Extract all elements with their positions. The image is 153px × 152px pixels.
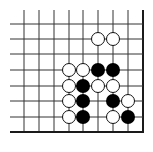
white-stone <box>92 33 105 46</box>
black-stone <box>91 63 105 77</box>
black-stone <box>121 110 135 124</box>
black-stone <box>76 110 90 124</box>
black-stone <box>106 63 120 77</box>
black-stone <box>106 94 120 108</box>
white-stone <box>107 111 120 124</box>
stones <box>63 33 136 125</box>
white-stone <box>63 80 76 93</box>
white-stone <box>122 95 135 108</box>
white-stone <box>107 33 120 46</box>
black-stone <box>76 94 90 108</box>
go-board <box>0 0 153 152</box>
white-stone <box>77 64 90 77</box>
white-stone <box>63 111 76 124</box>
black-stone <box>76 79 90 93</box>
white-stone <box>107 80 120 93</box>
white-stone <box>92 80 105 93</box>
white-stone <box>63 64 76 77</box>
white-stone <box>63 95 76 108</box>
